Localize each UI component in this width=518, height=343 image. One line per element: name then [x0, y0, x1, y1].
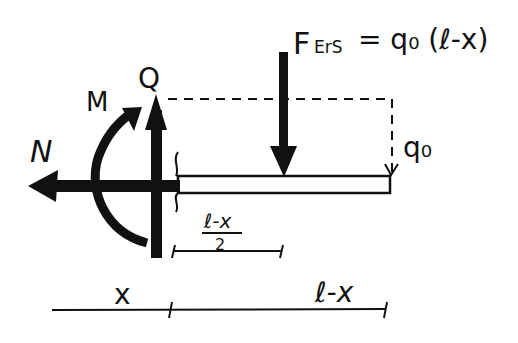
beam-free-body-diagram: N M Q F ErS = q₀ (ℓ-x) q₀ ℓ-x 2 x ℓ-x	[0, 0, 518, 343]
moment-arrow	[95, 107, 147, 243]
label-x: x	[114, 278, 131, 311]
resultant-force-arrow	[270, 52, 297, 177]
label-n: N	[30, 134, 52, 169]
label-q: Q	[138, 62, 160, 95]
label-l-minus-x: ℓ-x	[314, 276, 354, 309]
shear-force-arrow	[145, 94, 167, 258]
beam	[178, 176, 390, 193]
label-q0: q₀	[403, 131, 432, 164]
label-f-equation: = q₀ (ℓ-x)	[358, 23, 488, 56]
label-f-subscript: ErS	[314, 37, 343, 57]
label-m: M	[86, 87, 108, 117]
half-length-dimension	[172, 233, 283, 258]
label-half-numerator: ℓ-x	[203, 209, 231, 233]
label-f: F	[293, 26, 310, 61]
label-half-denominator: 2	[215, 235, 225, 254]
